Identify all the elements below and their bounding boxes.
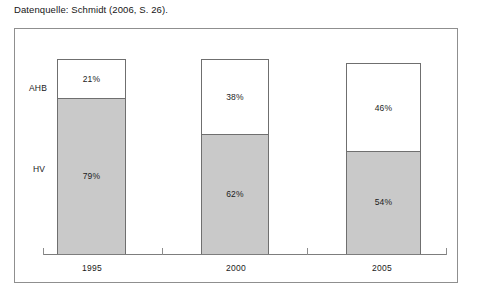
category-axis-line [43,254,446,255]
category-label-2005: 2005 [372,263,392,273]
bar-2005-segment-ahb[interactable]: 46% [346,63,421,152]
axis-tick-2 [307,248,308,255]
bar-1995[interactable]: 21% 79% [57,59,126,255]
series-label-ahb: AHB [29,83,47,93]
bar-2000-value-hv: 62% [226,189,244,199]
stacked-bar-chart: AHB HV 21% 79% 38% 62% 46% 5 [15,29,459,284]
bar-2005-value-hv: 54% [375,197,393,207]
axis-tick-3 [446,248,447,255]
bar-2000-segment-ahb[interactable]: 38% [201,59,269,135]
bar-2000-value-ahb: 38% [226,92,244,102]
bar-2000[interactable]: 38% 62% [201,59,269,255]
bar-2005-value-ahb: 46% [375,103,393,113]
bar-2000-segment-hv[interactable]: 62% [201,134,269,255]
series-label-hv: HV [33,164,45,174]
bar-1995-segment-ahb[interactable]: 21% [57,59,126,99]
figure-frame: AHB HV 21% 79% 38% 62% 46% 5 [14,28,458,283]
category-label-1995: 1995 [82,263,102,273]
bar-1995-value-hv: 79% [83,171,101,181]
data-source-caption: Datenquelle: Schmidt (2006, S. 26). [14,4,168,16]
axis-tick-0 [43,248,44,255]
bar-1995-value-ahb: 21% [83,74,101,84]
category-label-2000: 2000 [226,263,246,273]
bar-1995-segment-hv[interactable]: 79% [57,98,126,255]
bar-2005-segment-hv[interactable]: 54% [346,151,421,255]
bar-2005[interactable]: 46% 54% [346,63,421,255]
axis-tick-1 [162,248,163,255]
